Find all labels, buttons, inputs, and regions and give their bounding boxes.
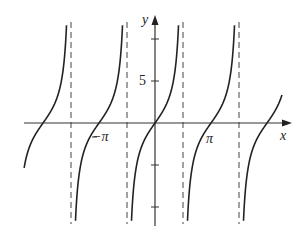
- y-axis-label: y: [142, 13, 148, 27]
- axes: [24, 15, 292, 226]
- y-tick-label-5: 5: [139, 74, 146, 88]
- tangent-branch: [24, 25, 66, 168]
- x-axis-label: x: [280, 129, 286, 143]
- x-tick-label-pi: π: [206, 132, 213, 146]
- tangent-branch: [243, 95, 281, 221]
- x-axis-arrow-icon: [282, 120, 292, 127]
- y-axis-arrow-icon: [152, 15, 159, 25]
- x-tick-label-neg-pi: −π: [92, 130, 108, 144]
- tangent-plot: [0, 0, 303, 231]
